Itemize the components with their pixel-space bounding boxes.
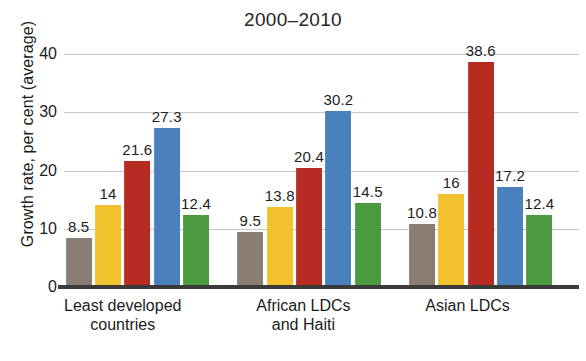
category-label-line: and Haiti [256,315,350,334]
chart-title: 2000–2010 [0,9,586,31]
bar-value-label: 16 [443,174,460,191]
bar-series-1-g2[interactable]: 9.5 [237,232,263,287]
bar-slot: 27.3 [152,44,181,287]
y-tick-30: 30 [39,103,57,121]
bar-value-label: 9.5 [240,212,261,229]
category-label-line: Asian LDCs [425,296,509,315]
bar-groups: 8.51421.627.312.49.513.820.430.214.510.8… [64,44,579,287]
bar-series-3-g1[interactable]: 21.6 [124,161,150,287]
x-axis-baseline [58,285,579,289]
bar-slot: 9.5 [236,44,265,287]
bar-value-label: 21.6 [122,141,152,158]
bar-series-3-g3[interactable]: 38.6 [468,62,494,287]
bar-series-4-g3[interactable]: 17.2 [497,187,523,287]
bar-slot: 17.2 [495,44,524,287]
bar-value-label: 14.5 [353,183,383,200]
bar-value-label: 20.4 [294,148,324,165]
bar-value-label: 30.2 [323,91,353,108]
bar-group-2: 9.513.820.430.214.5 [236,44,408,287]
bar-value-label: 27.3 [152,108,182,125]
bar-series-2-g1[interactable]: 14 [95,205,121,287]
bar-value-label: 10.8 [407,204,437,221]
bar-value-label: 12.4 [181,195,211,212]
category-label-3: Asian LDCs [425,296,584,334]
y-axis-label-text: Growth rate, per cent (average) [19,21,37,247]
bar-series-5-g3[interactable]: 12.4 [526,215,552,287]
bar-value-label: 14 [99,185,116,202]
y-tick-10: 10 [39,220,57,238]
category-labels: Least developedcountriesAfrican LDCsand … [64,296,579,334]
bar-slot: 10.8 [407,44,436,287]
category-label-line: Least developed [64,296,181,315]
bar-series-4-g2[interactable]: 30.2 [325,111,351,287]
bar-slot: 13.8 [265,44,294,287]
bar-value-label: 12.4 [524,195,554,212]
bar-series-2-g3[interactable]: 16 [438,194,464,287]
bar-group-3: 10.81638.617.212.4 [407,44,579,287]
bar-slot: 12.4 [181,44,210,287]
bar-series-5-g2[interactable]: 14.5 [355,203,381,287]
bar-chart: 2000–2010 Growth rate, per cent (average… [0,0,586,361]
category-label-line: African LDCs [256,296,350,315]
bar-series-3-g2[interactable]: 20.4 [296,168,322,287]
bar-slot: 16 [437,44,466,287]
y-tick-40: 40 [39,45,57,63]
bar-slot: 30.2 [324,44,353,287]
y-tick-20: 20 [39,162,57,180]
category-label-1: Least developedcountries [64,296,256,334]
bar-value-label: 8.5 [68,218,89,235]
bar-series-4-g1[interactable]: 27.3 [154,128,180,287]
bar-slot: 38.6 [466,44,495,287]
bar-series-1-g1[interactable]: 8.5 [66,238,92,288]
bar-slot: 8.5 [64,44,93,287]
plot-area: 010203040 8.51421.627.312.49.513.820.430… [64,44,579,287]
bar-group-1: 8.51421.627.312.4 [64,44,236,287]
category-label-line: countries [64,315,181,334]
bar-slot: 12.4 [525,44,554,287]
category-label-2: African LDCsand Haiti [256,296,425,334]
bar-value-label: 17.2 [495,167,525,184]
bar-slot: 21.6 [123,44,152,287]
bar-slot: 20.4 [294,44,323,287]
bar-series-5-g1[interactable]: 12.4 [183,215,209,287]
bar-value-label: 38.6 [466,42,496,59]
y-axis-label: Growth rate, per cent (average) [16,9,40,259]
bar-value-label: 13.8 [265,187,295,204]
bar-slot: 14 [93,44,122,287]
bar-series-1-g3[interactable]: 10.8 [409,224,435,287]
y-tick-0: 0 [48,278,57,296]
bar-slot: 14.5 [353,44,382,287]
bar-series-2-g2[interactable]: 13.8 [267,207,293,287]
